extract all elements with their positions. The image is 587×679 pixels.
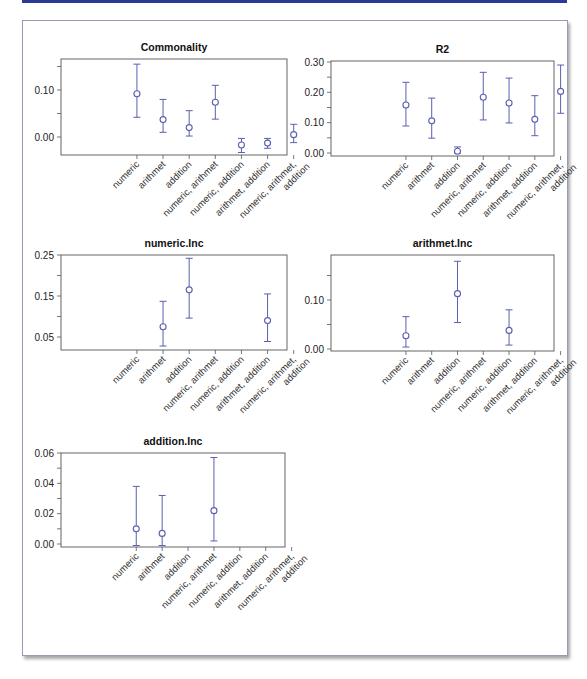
point-marker (429, 118, 435, 124)
point-marker (211, 508, 217, 514)
plot-area (331, 255, 554, 351)
point-marker (454, 148, 460, 154)
plot-area (61, 453, 285, 547)
y-tick-label: 0.00 (305, 344, 325, 355)
point-marker (159, 530, 165, 536)
point-marker (480, 94, 486, 100)
y-tick-label: 0.15 (35, 291, 55, 302)
point-marker (506, 327, 512, 333)
point-marker (291, 132, 297, 138)
svg-text:arithmet: arithmet (135, 158, 167, 190)
y-tick-label: 0.05 (35, 332, 55, 343)
point-marker (160, 117, 166, 123)
data-point (454, 261, 461, 322)
data-point (160, 99, 167, 132)
point-marker (238, 142, 244, 148)
data-point (210, 458, 217, 541)
x-tick-label: arithmet (135, 353, 167, 385)
point-marker (134, 91, 140, 97)
point-marker (506, 100, 512, 106)
point-marker (454, 291, 460, 297)
plot-area (331, 61, 554, 156)
chart-addition-inc: addition.Inc0.000.020.040.06numericarith… (35, 435, 310, 620)
chart-grid: Commonality0.000.10numericarithmetadditi… (0, 0, 587, 679)
data-point (290, 124, 297, 142)
point-marker (186, 287, 192, 293)
svg-text:arithmet: arithmet (404, 354, 436, 386)
x-tick-label: arithmet (404, 354, 436, 386)
plot-area (61, 59, 287, 155)
chart-r2: R20.000.100.200.30numericarithmetadditio… (305, 43, 579, 229)
data-point (454, 147, 461, 154)
data-point (480, 72, 487, 120)
svg-text:arithmet: arithmet (404, 159, 436, 191)
data-point (186, 258, 193, 318)
plot-area (61, 255, 287, 350)
data-point (133, 486, 140, 545)
chart-title: numeric.Inc (145, 237, 204, 249)
data-point (402, 317, 409, 347)
data-point (428, 98, 435, 138)
point-marker (265, 318, 271, 324)
point-marker (186, 125, 192, 131)
data-point (238, 138, 245, 152)
x-tick-label: arithmet (404, 159, 436, 191)
y-tick-label: 0.06 (35, 448, 55, 459)
point-marker (403, 102, 409, 108)
chart-title: addition.Inc (144, 435, 203, 447)
y-tick-label: 0.04 (35, 478, 55, 489)
point-marker (558, 88, 564, 94)
x-tick-label: arithmet (135, 550, 167, 582)
chart-title: Commonality (141, 41, 208, 53)
chart-commonality: Commonality0.000.10numericarithmetadditi… (35, 41, 312, 228)
chart-title: arithmet.Inc (413, 237, 473, 249)
svg-text:arithmet: arithmet (135, 353, 167, 385)
point-marker (403, 333, 409, 339)
y-tick-label: 0.25 (35, 250, 55, 261)
x-tick-label: arithmet (135, 158, 167, 190)
point-marker (133, 526, 139, 532)
y-tick-label: 0.30 (305, 57, 325, 68)
data-point (159, 495, 166, 545)
point-marker (532, 116, 538, 122)
data-point (160, 301, 167, 346)
y-tick-label: 0.00 (35, 132, 55, 143)
data-point (402, 82, 409, 126)
y-tick-label: 0.10 (305, 117, 325, 128)
y-tick-label: 0.00 (35, 539, 55, 550)
point-marker (212, 99, 218, 105)
data-point (506, 310, 513, 345)
chart-numeric-inc: numeric.Inc0.050.150.25numericarithmetad… (35, 237, 312, 423)
chart-title: R2 (436, 43, 450, 55)
data-point (264, 294, 271, 342)
data-point (557, 65, 564, 113)
data-point (212, 85, 219, 119)
data-point (506, 78, 513, 123)
y-tick-label: 0.02 (35, 508, 55, 519)
chart-arithmet-inc: arithmet.Inc0.000.10numericarithmetaddit… (305, 237, 579, 424)
y-tick-label: 0.10 (35, 85, 55, 96)
y-tick-label: 0.00 (305, 148, 325, 159)
point-marker (265, 140, 271, 146)
svg-text:arithmet: arithmet (135, 550, 167, 582)
data-point (186, 111, 193, 136)
y-tick-label: 0.20 (305, 87, 325, 98)
data-point (264, 138, 271, 148)
data-point (531, 96, 538, 136)
y-tick-label: 0.10 (305, 295, 325, 306)
point-marker (160, 324, 166, 330)
data-point (133, 64, 140, 117)
